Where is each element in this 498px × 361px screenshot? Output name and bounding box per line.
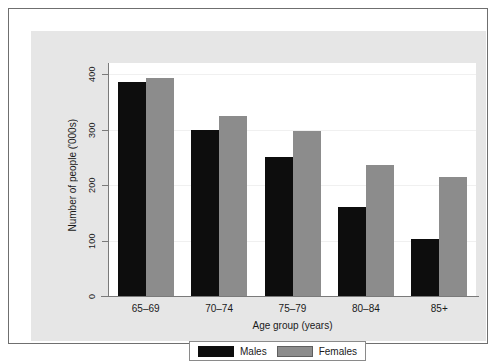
y-axis-tick-mark (102, 241, 108, 242)
bar-females-4 (439, 177, 467, 296)
y-axis-tick-label: 400 (87, 60, 99, 88)
y-axis-title: Number of people ('000s) (67, 119, 78, 232)
legend-entry-females: Females (277, 346, 357, 357)
y-axis-tick-mark (102, 130, 108, 131)
x-axis-tick-label: 65–69 (111, 303, 181, 314)
figure-outer-frame: 0100200300400 Number of people ('000s) 6… (8, 8, 488, 344)
x-axis-tick-label: 80–84 (331, 303, 401, 314)
bar-males-0 (118, 82, 146, 296)
bar-females-0 (146, 78, 174, 296)
x-axis-tick-label: 75–79 (258, 303, 328, 314)
bar-males-2 (265, 157, 293, 296)
legend-label-females: Females (319, 346, 357, 357)
legend-swatch-males (198, 346, 234, 357)
bar-males-1 (191, 130, 219, 296)
bar-males-3 (338, 207, 366, 296)
y-axis-tick-mark (102, 296, 108, 297)
bar-females-3 (366, 165, 394, 296)
y-axis-tick-label: 300 (87, 116, 99, 144)
x-axis-tick-label: 70–74 (184, 303, 254, 314)
y-axis-tick-label: 0 (87, 282, 99, 310)
bar-females-1 (219, 116, 247, 296)
legend-label-males: Males (240, 346, 267, 357)
x-axis-tick-label: 85+ (404, 303, 474, 314)
bar-males-4 (411, 239, 439, 296)
chart-legend: MalesFemales (189, 341, 366, 361)
x-axis-line (101, 296, 479, 297)
bar-females-2 (293, 131, 321, 296)
y-axis-tick-label: 200 (87, 171, 99, 199)
x-axis-title: Age group (years) (109, 320, 476, 331)
figure-panel: 0100200300400 Number of people ('000s) 6… (31, 31, 486, 341)
bars-layer (109, 63, 476, 296)
y-axis-tick-label: 100 (87, 227, 99, 255)
y-axis-tick-mark (102, 74, 108, 75)
y-axis-tick-mark (102, 185, 108, 186)
legend-entry-males: Males (198, 346, 267, 357)
legend-swatch-females (277, 346, 313, 357)
